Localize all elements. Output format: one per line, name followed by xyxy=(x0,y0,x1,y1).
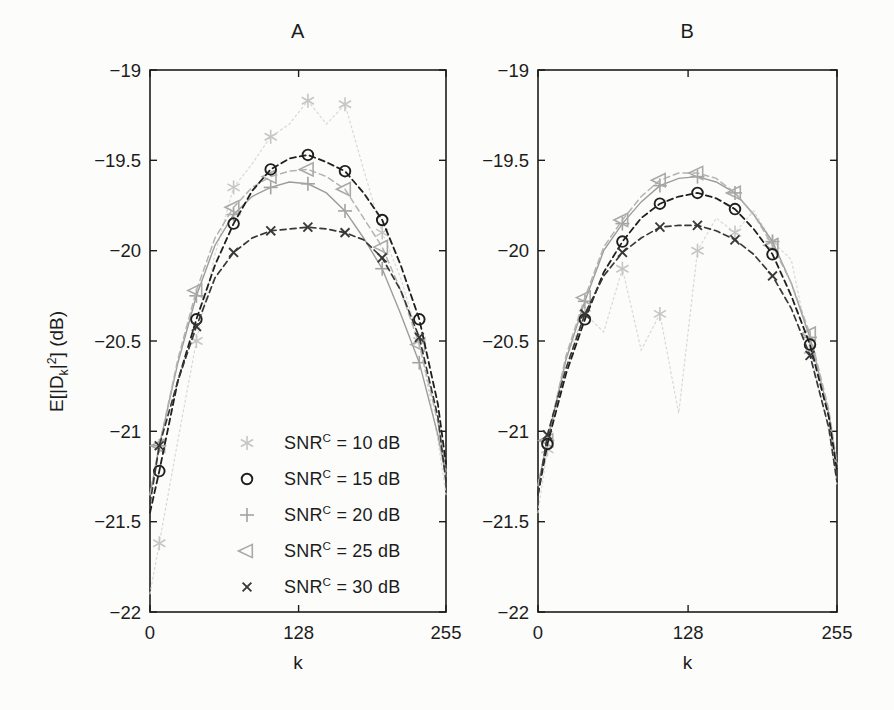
series-line-snr-15db xyxy=(538,193,837,495)
series-line-snr-20db xyxy=(538,177,837,486)
triangle-left-marker-icon xyxy=(239,544,253,557)
y-tick-label: −20 xyxy=(498,240,529,261)
subplot-b-title: B xyxy=(538,20,837,43)
subplot-b-xlabel: k xyxy=(538,652,837,674)
asterisk-marker-icon xyxy=(265,130,277,144)
circle-marker-icon xyxy=(617,236,628,247)
x-tick-labels: 0128255 xyxy=(145,622,462,643)
x-tick-label: 0 xyxy=(533,622,543,643)
x-icon xyxy=(224,573,270,601)
subplot-a-xlabel: k xyxy=(150,652,446,674)
y-tick-label: −21 xyxy=(110,421,141,442)
y-tick-label: −19.5 xyxy=(482,150,529,171)
plus-marker-icon xyxy=(375,262,389,276)
asterisk-icon xyxy=(224,429,270,457)
asterisk-marker-icon xyxy=(654,307,666,321)
x-tick-label: 0 xyxy=(145,622,155,643)
y-tick-label: −19.5 xyxy=(94,150,141,171)
series-markers-snr-10db xyxy=(541,226,816,457)
series-markers-snr-30db xyxy=(155,223,424,451)
subplot-a-title: A xyxy=(150,20,446,43)
legend-label: SNRC = 25 dB xyxy=(284,541,400,562)
y-tick-labels: −19−19.5−20−20.5−21−21.5−22 xyxy=(482,60,529,623)
y-tick-label: −21.5 xyxy=(482,511,529,532)
figure-canvas: −19−19.5−20−20.5−21−21.5−220128255 −19−1… xyxy=(0,0,894,710)
triangle-left-icon xyxy=(224,537,270,565)
y-tick-label: −19 xyxy=(498,60,529,81)
x-tick-label: 128 xyxy=(673,622,704,643)
circle-marker-icon xyxy=(242,474,253,485)
series-line-snr-10db xyxy=(538,211,837,513)
legend-label: SNRC = 15 dB xyxy=(284,469,400,490)
legend-item-snr-30db: SNRC = 30 dB xyxy=(224,569,400,605)
circle-icon xyxy=(224,465,270,493)
legend-label: SNRC = 30 dB xyxy=(284,577,400,598)
x-tick-label: 128 xyxy=(283,622,314,643)
series-markers-snr-25db xyxy=(539,166,815,447)
y-tick-label: −21.5 xyxy=(94,511,141,532)
series-markers-snr-30db xyxy=(543,221,815,440)
asterisk-marker-icon xyxy=(241,436,253,450)
subplot-b: −19−19.5−20−20.5−21−21.5−220128255 xyxy=(470,10,874,700)
legend-item-snr-25db: SNRC = 25 dB xyxy=(224,533,400,569)
legend-item-snr-20db: SNRC = 20 dB xyxy=(224,497,400,533)
x-marker-icon xyxy=(656,223,665,232)
circle-marker-icon xyxy=(340,166,351,177)
x-tick-label: 255 xyxy=(822,622,853,643)
y-tick-label: −19 xyxy=(110,60,141,81)
y-tick-label: −22 xyxy=(110,602,141,623)
y-tick-label: −20.5 xyxy=(94,331,141,352)
legend-item-snr-10db: SNRC = 10 dB xyxy=(224,425,400,461)
y-tick-label: −21 xyxy=(498,421,529,442)
plus-marker-icon xyxy=(240,508,254,522)
x-marker-icon xyxy=(229,248,238,257)
y-tick-label: −20 xyxy=(110,240,141,261)
x-marker-icon xyxy=(768,272,777,281)
asterisk-marker-icon xyxy=(729,226,741,240)
plus-icon xyxy=(224,501,270,529)
y-tick-label: −20.5 xyxy=(482,331,529,352)
series-line-snr-25db xyxy=(538,173,837,486)
legend: SNRC = 10 dBSNRC = 15 dBSNRC = 20 dBSNRC… xyxy=(224,425,400,605)
series-line-snr-30db xyxy=(538,225,837,494)
asterisk-marker-icon xyxy=(691,244,703,258)
legend-item-snr-15db: SNRC = 15 dB xyxy=(224,461,400,497)
legend-label: SNRC = 20 dB xyxy=(284,505,400,526)
plus-marker-icon xyxy=(301,177,315,191)
x-marker-icon xyxy=(618,248,627,257)
x-tick-label: 255 xyxy=(431,622,462,643)
y-tick-label: −22 xyxy=(498,602,529,623)
x-marker-icon xyxy=(378,254,387,263)
asterisk-marker-icon xyxy=(616,262,628,276)
x-marker-icon xyxy=(243,583,252,592)
y-axis-label: E[|Dk|2] (dB) xyxy=(46,311,68,412)
asterisk-marker-icon xyxy=(376,226,388,240)
legend-label: SNRC = 10 dB xyxy=(284,433,400,454)
x-tick-labels: 0128255 xyxy=(533,622,853,643)
asterisk-marker-icon xyxy=(153,536,165,550)
y-tick-labels: −19−19.5−20−20.5−21−21.5−22 xyxy=(94,60,141,623)
